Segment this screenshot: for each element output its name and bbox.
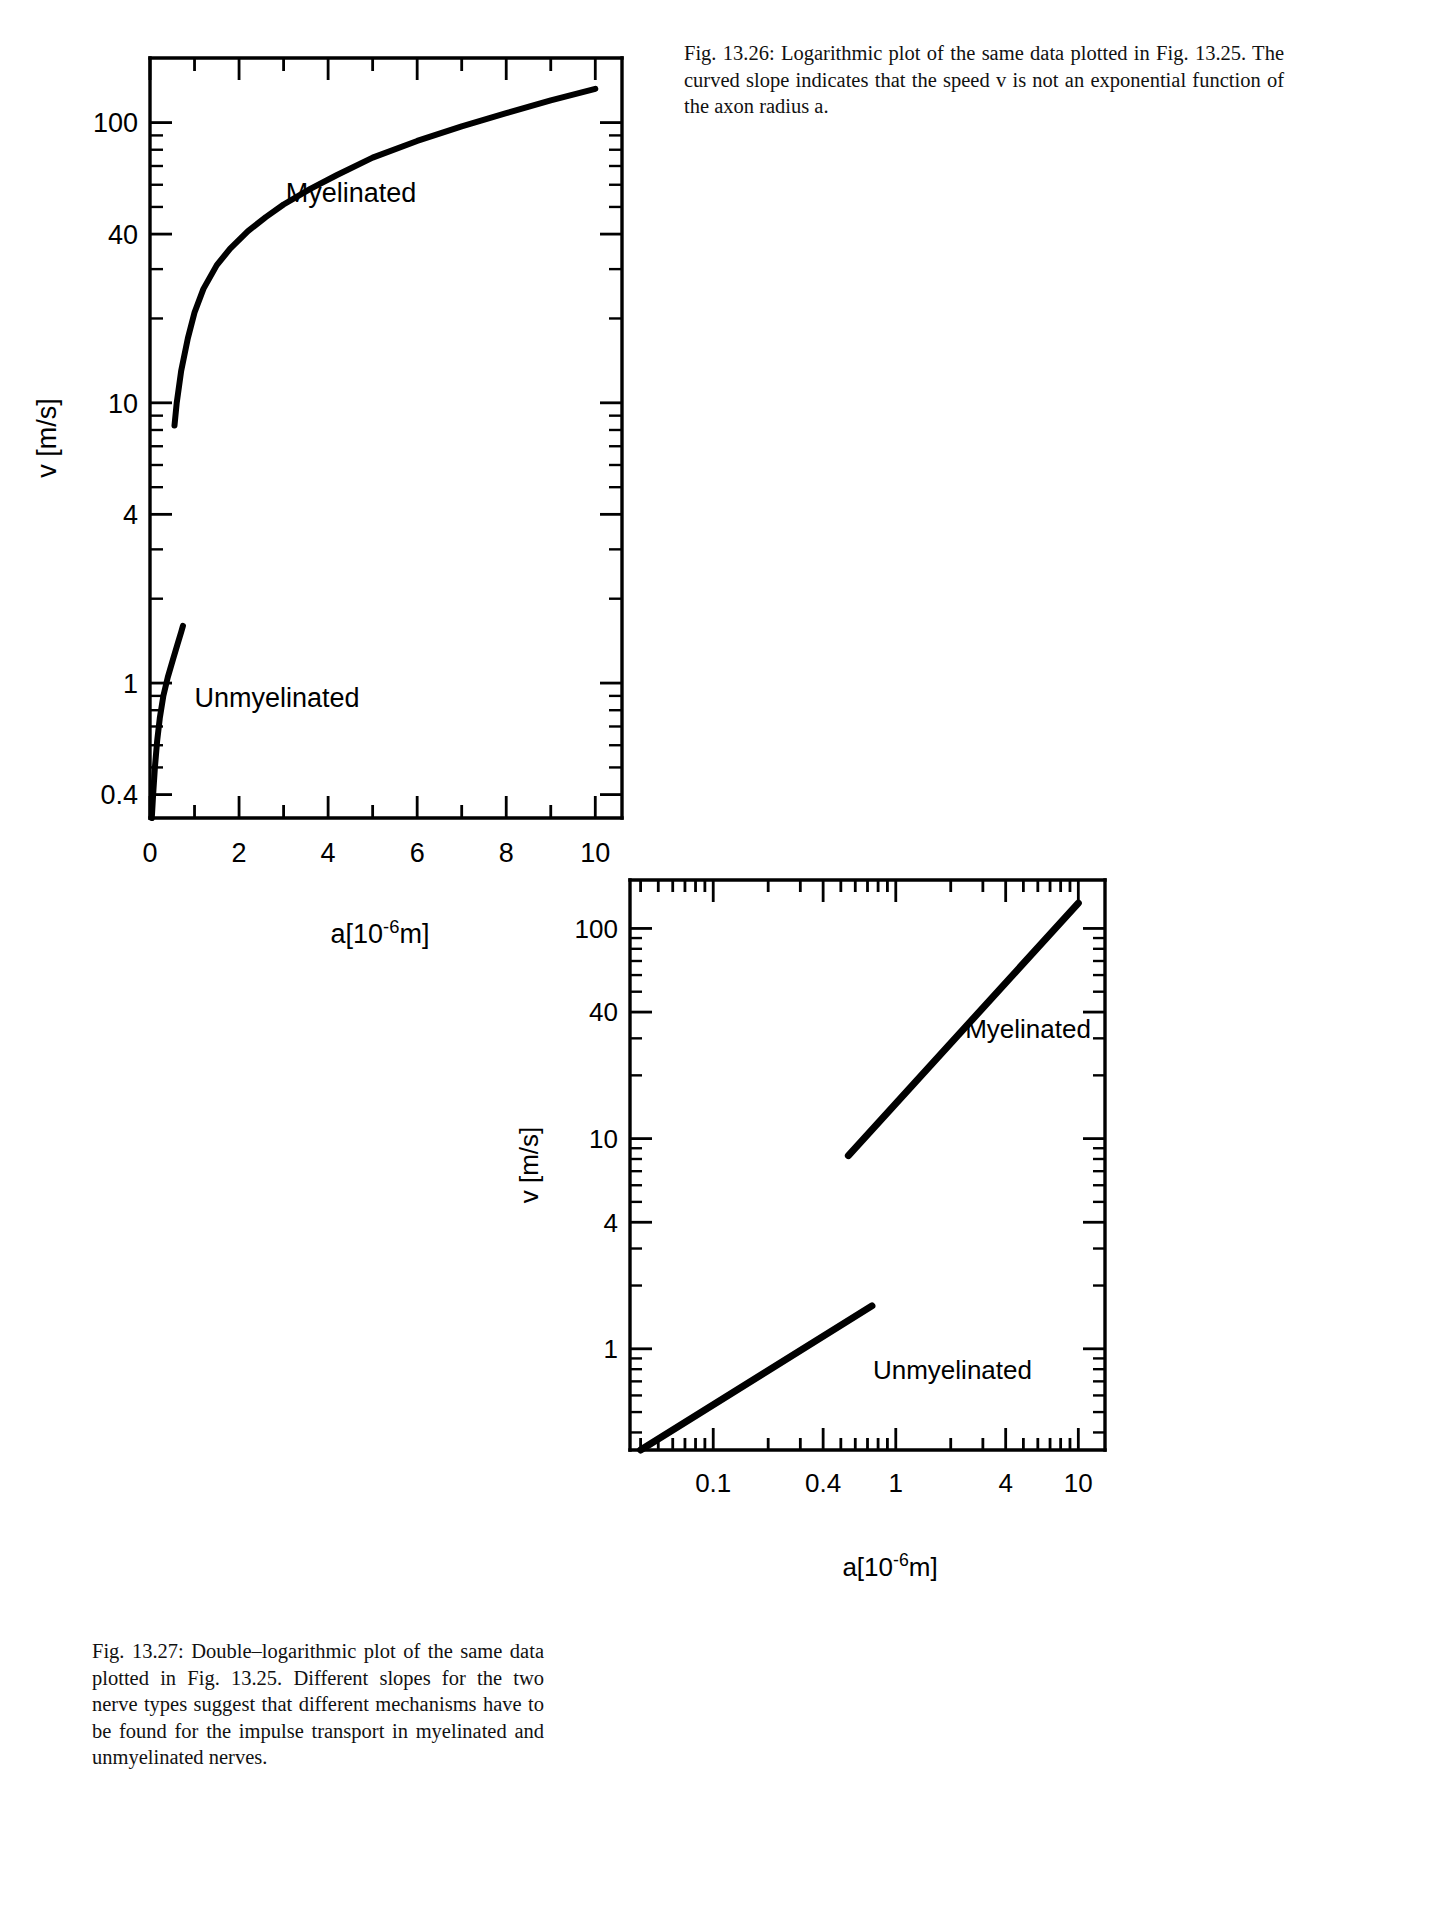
- series-curve-unmyelinated: [152, 626, 183, 818]
- caption-fig-13-26-text: Fig. 13.26: Logarithmic plot of the same…: [684, 42, 1284, 117]
- x-axis-tick-label: 4: [998, 1468, 1012, 1498]
- caption-fig-13-26: Fig. 13.26: Logarithmic plot of the same…: [684, 40, 1284, 120]
- y-axis-title: v [m/s]: [32, 398, 62, 478]
- y-axis-tick-label: 4: [123, 500, 138, 530]
- chart-13-27-svg: 1410401000.10.41410v [m/s]a[10-6m]Myelin…: [560, 880, 1200, 1680]
- x-axis-title: a[10-6m]: [842, 1550, 937, 1582]
- figure-page: 0.41410401000246810v [m/s]a[10-6m]Myelin…: [0, 0, 1430, 1918]
- x-axis-tick-label: 2: [232, 838, 247, 868]
- y-axis-title: v [m/s]: [514, 1127, 544, 1204]
- x-axis-tick-label: 6: [410, 838, 425, 868]
- y-axis-tick-label: 40: [589, 997, 618, 1027]
- x-axis-tick-label: 4: [321, 838, 336, 868]
- x-axis-tick-label: 10: [1064, 1468, 1093, 1498]
- series-curve-unmyelinated: [641, 1306, 872, 1450]
- x-axis-tick-label: 0.4: [805, 1468, 841, 1498]
- y-axis-tick-label: 40: [108, 220, 138, 250]
- y-axis-tick-label: 4: [604, 1208, 618, 1238]
- y-axis-tick-label: 100: [575, 914, 618, 944]
- y-axis-tick-label: 0.4: [100, 780, 138, 810]
- series-curve-myelinated: [174, 89, 595, 426]
- chart-fig-13-26: 0.41410401000246810v [m/s]a[10-6m]Myelin…: [0, 18, 700, 1018]
- x-axis-tick-label: 0.1: [695, 1468, 731, 1498]
- series-label-unmyelinated: Unmyelinated: [873, 1355, 1032, 1385]
- series-label-myelinated: Myelinated: [965, 1014, 1091, 1044]
- x-axis-tick-label: 8: [499, 838, 514, 868]
- y-axis-tick-label: 1: [123, 669, 138, 699]
- y-axis-tick-label: 1: [604, 1334, 618, 1364]
- chart-fig-13-27: 1410401000.10.41410v [m/s]a[10-6m]Myelin…: [560, 880, 1200, 1680]
- x-axis-tick-label: 10: [580, 838, 610, 868]
- x-axis-tick-label: 1: [889, 1468, 903, 1498]
- series-label-myelinated: Myelinated: [286, 178, 417, 208]
- y-axis-tick-label: 10: [108, 389, 138, 419]
- chart-13-26-svg: 0.41410401000246810v [m/s]a[10-6m]Myelin…: [0, 18, 700, 1018]
- caption-fig-13-27: Fig. 13.27: Double–logarithmic plot of t…: [92, 1638, 544, 1771]
- y-axis-tick-label: 100: [93, 108, 138, 138]
- x-axis-title: a[10-6m]: [331, 916, 430, 949]
- y-axis-tick-label: 10: [589, 1124, 618, 1154]
- series-label-unmyelinated: Unmyelinated: [195, 683, 360, 713]
- x-axis-tick-label: 0: [142, 838, 157, 868]
- caption-fig-13-27-text: Fig. 13.27: Double–logarithmic plot of t…: [92, 1640, 544, 1768]
